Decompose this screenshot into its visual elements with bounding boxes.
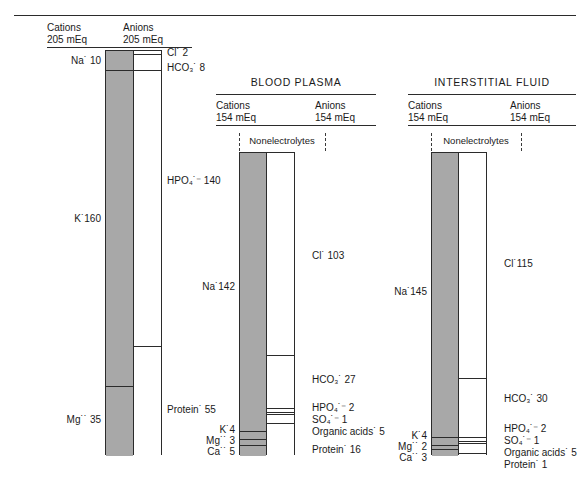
label-cl-panel3: Cl˙115 (504, 258, 533, 269)
label-ca-panel2: Ca˙˙ 5 (160, 446, 235, 457)
segment-k-panel2 (240, 432, 266, 440)
panel-title-blood-plasma: BLOOD PLASMA (216, 76, 376, 88)
label-na-panel1: Na˙ 10 (23, 55, 101, 66)
anions-header-line2-panel2: 154 mEq (315, 112, 355, 124)
label-k-panel3: K˙4 (352, 430, 427, 441)
label-cl-panel2: Cl˙ 103 (312, 250, 344, 261)
segment-ca-panel3 (432, 450, 458, 456)
label-k-panel1: K˙160 (23, 213, 101, 224)
cations-column-panel1 (106, 51, 134, 454)
segment-na-panel1 (106, 51, 133, 71)
segment-protein-panel1 (134, 347, 162, 456)
cations-header-line2: 205 mEq (47, 34, 87, 46)
segment-protein-panel3 (459, 454, 486, 456)
segment-hco3-panel2 (267, 356, 294, 409)
nonelectrolytes-label-panel2: Nonelectrolytes (239, 135, 325, 146)
label-so4-panel2: SO₄˙⁻ 1 (312, 414, 347, 425)
nonelectrolytes-tick-right-panel2 (325, 133, 326, 151)
electrolyte-composition-figure: Cations 205 mEq Anions 205 mEq Na˙ 10 K˙… (0, 0, 581, 486)
nonelectrolytes-label-panel3: Nonelectrolytes (431, 135, 521, 146)
cations-header-panel2: Cations 154 mEq (216, 100, 256, 123)
bar-interstitial-fluid (431, 152, 487, 455)
anions-column-panel3 (459, 153, 486, 454)
label-hco3-panel1: HCO₃˙ 8 (167, 62, 205, 73)
label-hpo4-panel1: HPO₄˙⁻ 140 (167, 175, 221, 186)
segment-cl-panel3 (459, 153, 486, 379)
label-hpo4-panel2: HPO₄˙⁻ 2 (312, 402, 354, 413)
cations-header-line1-panel3: Cations (408, 100, 448, 112)
segment-na-panel2 (240, 153, 266, 432)
anions-column-panel2 (267, 153, 294, 454)
anions-header-panel1: Anions 205 mEq (123, 22, 163, 45)
header-rule-panel3 (408, 125, 576, 126)
cations-header-line1: Cations (47, 22, 87, 34)
label-so4-panel3: SO₄˙⁻ 1 (504, 435, 539, 446)
label-mg-panel3: Mg˙˙ 2 (352, 441, 427, 452)
label-k-panel2: K˙4 (160, 424, 235, 435)
cations-header-panel3: Cations 154 mEq (408, 100, 448, 123)
segment-organic-acids-panel3 (459, 444, 486, 454)
segment-k-panel1 (106, 71, 133, 387)
segment-hco3-panel3 (459, 379, 486, 438)
panel-title-interstitial-fluid: INTERSTITIAL FLUID (408, 76, 576, 88)
anions-header-line2-panel3: 154 mEq (510, 112, 550, 124)
anions-header-panel3: Anions 154 mEq (510, 100, 550, 123)
cations-header-line2-panel3: 154 mEq (408, 112, 448, 124)
cations-header-line2-panel2: 154 mEq (216, 112, 256, 124)
anions-header-line1: Anions (123, 22, 163, 34)
top-divider-rule (14, 15, 576, 16)
nonelectrolytes-tick-right-panel3 (521, 133, 522, 151)
label-mg-panel2: Mg˙˙ 3 (160, 435, 235, 446)
title-rule-blood-plasma (216, 94, 376, 95)
label-hco3-panel3: HCO₃˙ 30 (504, 393, 548, 404)
anions-header-line1-panel3: Anions (510, 100, 550, 112)
anions-column-panel1 (134, 51, 162, 454)
header-rule-panel2 (216, 125, 376, 126)
segment-hco3-panel1 (134, 55, 162, 71)
label-na-panel2: Na˙142 (160, 281, 235, 292)
segment-hpo4-panel1 (134, 71, 162, 348)
label-hco3-panel2: HCO₃˙ 27 (312, 374, 356, 385)
segment-ca-panel2 (240, 446, 266, 456)
segment-mg-panel1 (106, 387, 133, 456)
label-protein-panel1: Protein˙ 55 (167, 404, 216, 415)
label-na-panel3: Na˙145 (352, 286, 427, 297)
cations-column-panel2 (240, 153, 267, 454)
anions-header-line1-panel2: Anions (315, 100, 355, 112)
bar-blood-plasma (239, 152, 295, 455)
cations-header-panel1: Cations 205 mEq (47, 22, 87, 45)
label-mg-panel1: Mg˙˙ 35 (23, 414, 101, 425)
anions-header-line2: 205 mEq (123, 34, 163, 46)
label-organic-acids-panel3: Organic acids˙ 5 (504, 447, 577, 458)
cations-header-line1-panel2: Cations (216, 100, 256, 112)
label-cl-panel1: Cl˙ 2 (167, 47, 188, 58)
segment-cl-panel2 (267, 153, 294, 356)
segment-na-panel3 (432, 153, 458, 438)
label-hpo4-panel3: HPO₄˙⁻ 2 (504, 423, 546, 434)
label-protein-panel3: Protein˙ 1 (504, 459, 547, 470)
segment-organic-acids-panel2 (267, 415, 294, 425)
label-ca-panel3: Ca˙˙ 3 (352, 452, 427, 463)
anions-header-panel2: Anions 154 mEq (315, 100, 355, 123)
segment-protein-panel2 (267, 424, 294, 456)
segment-k-panel3 (432, 438, 458, 446)
cations-column-panel3 (432, 153, 459, 454)
bar-intracellular-fluid (105, 50, 162, 455)
title-rule-interstitial-fluid (408, 94, 576, 95)
